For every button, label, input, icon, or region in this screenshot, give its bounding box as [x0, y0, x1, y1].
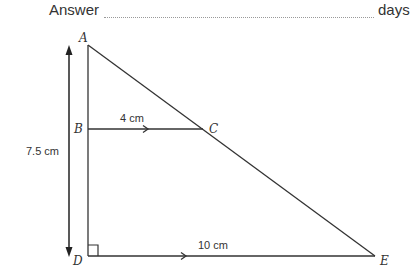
- line-bc: [88, 126, 203, 133]
- triangle-diagram: A B C D E 7.5 cm 4 cm 10 cm: [0, 0, 419, 277]
- right-angle-marker: [88, 245, 98, 256]
- point-label-d: D: [72, 254, 83, 268]
- point-label-b: B: [73, 122, 83, 136]
- point-label-e: E: [379, 254, 389, 268]
- height-dimension-arrow: [66, 45, 73, 257]
- point-label-a: A: [78, 31, 88, 45]
- triangle-ade: [88, 45, 375, 256]
- measurement-ad: 7.5 cm: [26, 145, 59, 157]
- measurement-bc: 4 cm: [120, 112, 144, 124]
- measurement-de: 10 cm: [198, 239, 228, 251]
- point-label-c: C: [209, 122, 218, 136]
